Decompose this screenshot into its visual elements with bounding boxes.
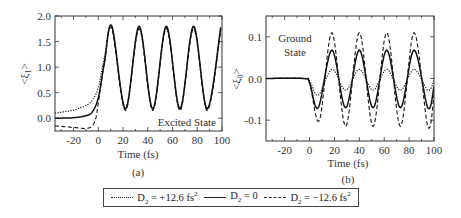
figure: -200204060801000.00.51.01.52.0 Excited S… — [0, 0, 461, 218]
panel-b-annotation-line1: Ground — [278, 32, 312, 44]
series-dashed-line — [55, 27, 221, 128]
legend-item-zero: D2 = 0 — [204, 190, 258, 204]
legend: D2 = +12.6 fs2 D2 = 0 D2 = −12.6 fs2 — [103, 188, 359, 207]
x-tick-label: 60 — [379, 144, 391, 156]
y-tick-label: 0.0 — [37, 112, 51, 124]
panel-b-annotation-line2: State — [284, 46, 306, 58]
series-solid-line — [55, 25, 221, 118]
legend-item-negative: D2 = −12.6 fs2 — [264, 190, 350, 206]
legend-label: D2 = −12.6 fs2 — [290, 190, 350, 206]
x-tick-label: 0 — [307, 144, 313, 156]
y-tick-label: 1.5 — [37, 36, 51, 48]
x-tick-label: 20 — [329, 144, 341, 156]
x-tick-label: 100 — [426, 144, 443, 156]
y-tick-label: 0.5 — [37, 87, 51, 99]
panel-a-xlabel: Time (fs) — [118, 148, 159, 161]
panel-b: -20020406080100-0.10.00.1 Ground State T… — [230, 16, 443, 186]
x-tick-label: -20 — [66, 134, 81, 146]
panel-a-curves — [55, 25, 221, 128]
x-tick-label: 80 — [192, 134, 204, 146]
x-tick-label: 20 — [118, 134, 130, 146]
y-tick-label: 1.0 — [37, 61, 51, 73]
y-tick-label: 0.0 — [248, 73, 262, 85]
panel-a-annotation: Excited State — [158, 116, 216, 128]
panel-a: -200204060801000.00.51.01.52.0 Excited S… — [18, 10, 231, 179]
y-tick-label: 0.1 — [248, 31, 262, 43]
panel-b-ticks: -20020406080100-0.10.00.1 — [245, 16, 443, 156]
panel-a-frame — [55, 16, 222, 131]
panel-b-xlabel: Time (fs) — [328, 157, 369, 170]
panel-a-ylabel: <ξ1> — [18, 63, 33, 84]
legend-label: D2 = +12.6 fs2 — [137, 190, 197, 206]
panel-b-label: (b) — [342, 173, 355, 186]
x-tick-label: 60 — [167, 134, 179, 146]
legend-label: D2 = 0 — [230, 190, 258, 204]
y-tick-label: 2.0 — [37, 10, 51, 22]
x-tick-label: 100 — [214, 134, 231, 146]
series-dotted-line — [55, 26, 221, 113]
panel-b-ylabel: <ξ0> — [230, 68, 245, 89]
x-tick-label: 0 — [96, 134, 102, 146]
x-tick-label: -20 — [277, 144, 292, 156]
solid-line-swatch — [204, 197, 226, 198]
x-tick-label: 40 — [142, 134, 154, 146]
dotted-line-swatch — [111, 197, 133, 198]
y-tick-label: -0.1 — [245, 114, 262, 126]
dashed-line-swatch — [264, 197, 286, 198]
legend-item-positive: D2 = +12.6 fs2 — [111, 190, 197, 206]
panel-a-label: (a) — [132, 166, 145, 179]
x-tick-label: 80 — [404, 144, 416, 156]
x-tick-label: 40 — [354, 144, 366, 156]
